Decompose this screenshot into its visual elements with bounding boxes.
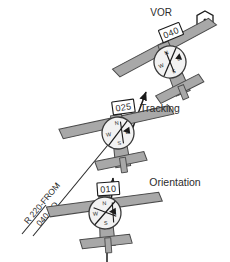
- diagram-canvas: R 220-FROM 040-TO VOR: [0, 0, 230, 262]
- aircraft-middle-compass-n: N: [114, 120, 119, 126]
- phase-label-orientation: Orientation: [149, 176, 201, 188]
- phase-label-tracking: Tracking: [140, 102, 180, 114]
- aircraft-middle-heading-box: 025: [112, 99, 136, 115]
- vor-navigation-figure: R 220-FROM 040-TO VOR: [0, 0, 230, 262]
- aircraft-bottom-compass-n: N: [102, 200, 106, 206]
- aircraft-bottom-heading-value: 010: [100, 184, 117, 195]
- aircraft-bottom-tail-fin: [105, 238, 112, 253]
- aircraft-bottom: N E S W 010: [45, 179, 166, 257]
- vor-station-label: VOR: [150, 7, 172, 18]
- aircraft-bottom-heading-box: 010: [97, 181, 120, 196]
